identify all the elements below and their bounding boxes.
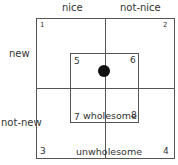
quadrant-number-2: 2 [163,21,167,29]
inner-number-5: 5 [74,56,80,66]
quadrant-number-1: 1 [40,21,44,29]
column-label-not-nice: not-nice [120,2,161,13]
outer-label-unwholesome: unwholesome [76,146,142,157]
quadrant-number-4: 4 [163,146,169,156]
marker-dot [98,65,110,77]
row-label-new: new [9,48,30,59]
quadrant-number-3: 3 [40,146,46,156]
inner-number-7: 7 [74,112,80,122]
inner-number-6: 6 [130,55,136,65]
column-label-nice: nice [62,2,83,13]
inner-label-wholesome: wholesome [83,110,137,121]
